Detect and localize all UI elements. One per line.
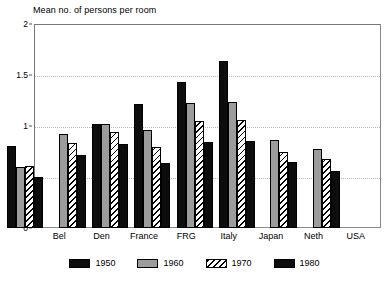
bar[interactable] xyxy=(7,146,16,228)
x-axis: BelDenFranceFRGItalyJapanNethUSA xyxy=(34,231,381,241)
legend-label: 1970 xyxy=(232,258,252,268)
bar-group xyxy=(174,24,216,228)
x-tick-label: Den xyxy=(80,231,122,241)
bar[interactable] xyxy=(92,124,101,228)
legend-swatch xyxy=(69,259,90,268)
bar-group xyxy=(46,24,88,228)
legend-item[interactable]: 1950 xyxy=(69,258,115,268)
bar-group xyxy=(89,24,131,228)
bar[interactable] xyxy=(161,163,170,228)
bar[interactable] xyxy=(270,140,279,228)
bar[interactable] xyxy=(177,82,186,228)
bar[interactable] xyxy=(322,159,331,228)
bar[interactable] xyxy=(110,132,119,228)
bar[interactable] xyxy=(195,121,204,228)
bar[interactable] xyxy=(279,152,288,229)
bar[interactable] xyxy=(119,144,128,228)
bar-group xyxy=(301,24,343,228)
legend-label: 1950 xyxy=(95,258,115,268)
bar[interactable] xyxy=(237,120,246,228)
legend-item[interactable]: 1970 xyxy=(206,258,252,268)
legend: 1950196019701980 xyxy=(0,258,389,268)
x-tick-label: Japan xyxy=(250,231,292,241)
bar[interactable] xyxy=(288,162,297,228)
bar-group xyxy=(216,24,258,228)
bar[interactable] xyxy=(313,149,322,228)
bar[interactable] xyxy=(204,142,213,228)
legend-label: 1980 xyxy=(300,258,320,268)
x-tick-label: FRG xyxy=(165,231,207,241)
bar[interactable] xyxy=(16,167,25,228)
legend-item[interactable]: 1960 xyxy=(137,258,183,268)
bar[interactable] xyxy=(152,147,161,228)
legend-swatch xyxy=(274,259,295,268)
bar[interactable] xyxy=(34,177,43,228)
legend-item[interactable]: 1980 xyxy=(274,258,320,268)
x-tick-label: Neth xyxy=(292,231,334,241)
bar[interactable] xyxy=(59,134,68,228)
bar[interactable] xyxy=(68,143,77,228)
x-tick-label: USA xyxy=(335,231,377,241)
legend-swatch xyxy=(137,259,158,268)
bar[interactable] xyxy=(186,103,195,228)
bar[interactable] xyxy=(143,130,152,228)
legend-label: 1960 xyxy=(163,258,183,268)
bar-group xyxy=(4,24,46,228)
bar-group xyxy=(131,24,173,228)
chart-title: Mean no. of persons per room xyxy=(33,5,156,15)
x-tick-label: France xyxy=(123,231,165,241)
bar[interactable] xyxy=(228,102,237,228)
legend-swatch xyxy=(206,259,227,268)
x-tick-label: Bel xyxy=(38,231,80,241)
bar-group xyxy=(258,24,300,228)
bar[interactable] xyxy=(77,155,86,228)
bar[interactable] xyxy=(25,166,34,228)
bar[interactable] xyxy=(134,104,143,228)
chart-root: Mean no. of persons per room 00.511.52 B… xyxy=(0,0,389,294)
x-tick-label: Italy xyxy=(208,231,250,241)
bar-groups xyxy=(0,24,347,228)
bar[interactable] xyxy=(246,141,255,228)
bar[interactable] xyxy=(101,124,110,228)
bar[interactable] xyxy=(219,61,228,228)
bar[interactable] xyxy=(331,171,340,228)
